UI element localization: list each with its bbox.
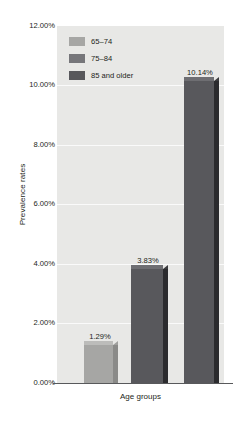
y-tick-4: 4.00% — [3, 260, 55, 268]
bar-topside-85-and-older — [214, 77, 219, 81]
plot-area: 1.29% 3.83% 10.14% 65–74 75–84 85 and ol… — [57, 26, 224, 383]
legend-label-85-and-older: 85 and older — [91, 71, 133, 80]
y-tick-2: 2.00% — [3, 319, 55, 327]
y-tick-8: 8.00% — [3, 141, 55, 149]
y-tick-6: 6.00% — [3, 200, 55, 208]
bar-chart-figure: Prevalence rates 12.00% 10.00% 8.00% 6.0… — [0, 0, 246, 427]
y-tick-10: 10.00% — [3, 81, 55, 89]
bar-face-75-84 — [131, 269, 163, 383]
legend-swatch-icon-65-74 — [69, 37, 85, 46]
bar-85-and-older[interactable] — [184, 81, 214, 383]
bar-top-65-74 — [84, 341, 113, 345]
legend: 65–74 75–84 85 and older — [69, 34, 189, 85]
legend-label-65-74: 65–74 — [91, 37, 112, 46]
bar-side-65-74 — [113, 345, 118, 383]
legend-item-85-and-older[interactable]: 85 and older — [69, 68, 189, 82]
legend-swatch-icon-75-84 — [69, 54, 85, 63]
bar-top-75-84 — [131, 265, 163, 269]
data-label-75-84: 3.83% — [123, 257, 173, 265]
legend-item-75-84[interactable]: 75–84 — [69, 51, 189, 65]
y-tick-12: 12.00% — [3, 22, 55, 30]
y-axis-tick-labels: 12.00% 10.00% 8.00% 6.00% 4.00% 2.00% 0.… — [0, 0, 55, 427]
legend-item-65-74[interactable]: 65–74 — [69, 34, 189, 48]
bar-75-84[interactable] — [131, 269, 163, 383]
data-label-65-74: 1.29% — [75, 333, 125, 341]
bar-65-74[interactable] — [84, 345, 113, 383]
bar-side-85-and-older — [214, 81, 219, 383]
y-tick-0: 0.00% — [3, 379, 55, 387]
x-axis-line — [53, 383, 233, 384]
bar-side-75-84 — [163, 269, 168, 383]
bar-face-85-and-older — [184, 81, 214, 383]
legend-label-75-84: 75–84 — [91, 54, 112, 63]
legend-swatch-icon-85-and-older — [69, 71, 85, 80]
bar-face-65-74 — [84, 345, 113, 383]
x-axis-label: Age groups — [57, 392, 224, 401]
